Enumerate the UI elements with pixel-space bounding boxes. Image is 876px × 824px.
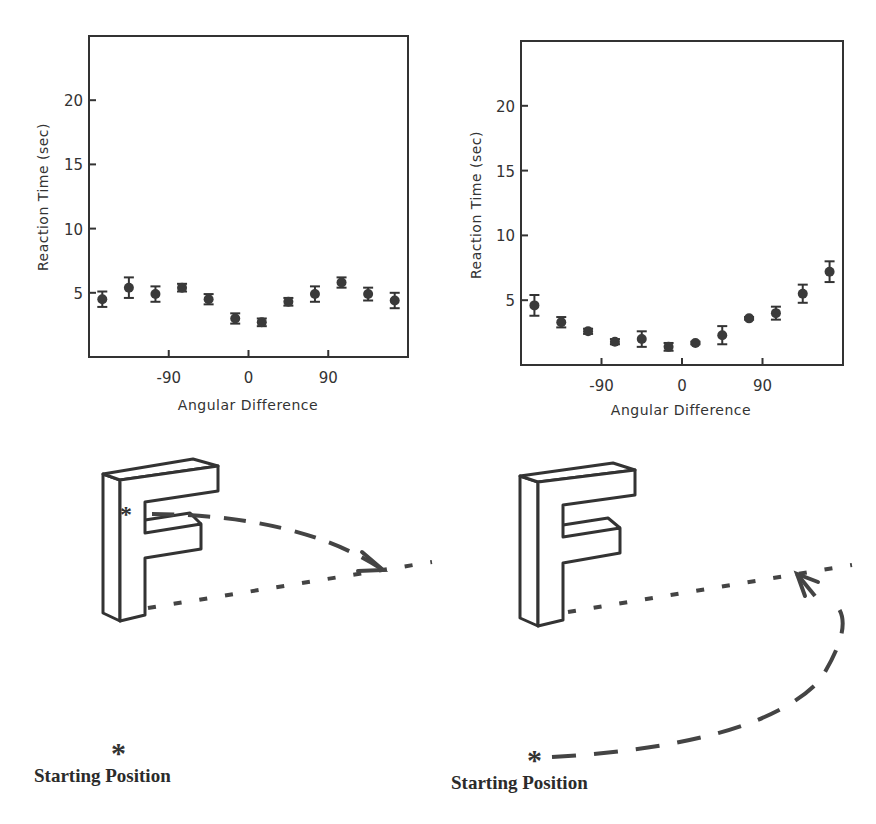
- data-point: [177, 283, 187, 293]
- left-x-axis: -90090: [157, 350, 338, 387]
- data-point: [204, 294, 214, 304]
- left-star-marker-on-f: *: [120, 501, 132, 527]
- y-tick-label: 15: [496, 163, 515, 181]
- data-point: [97, 292, 107, 307]
- data-point: [556, 317, 566, 327]
- right-letter-f-illustration: [520, 463, 635, 626]
- y-tick-label: 10: [64, 221, 83, 239]
- right-starting-position-label: Starting Position: [451, 772, 588, 794]
- y-tick-label: 5: [73, 285, 83, 303]
- f-side-face: [520, 476, 538, 626]
- right-y-axis: 5101520: [496, 98, 528, 310]
- data-point: [337, 277, 347, 287]
- x-tick-label: -90: [157, 369, 182, 387]
- left-start-star-icon: *: [111, 738, 126, 768]
- x-tick-label: 0: [244, 369, 254, 387]
- figure-canvas: 5101520 -90090 Angular Difference Reacti…: [0, 0, 876, 824]
- left-chart: 5101520 -90090 Angular Difference Reacti…: [35, 36, 408, 413]
- data-point: [390, 293, 400, 308]
- data-point: [771, 307, 781, 320]
- y-tick-label: 20: [496, 98, 515, 116]
- y-tick-label: 5: [505, 292, 515, 310]
- data-point: [825, 261, 835, 282]
- right-x-axis-title: Angular Difference: [611, 402, 751, 418]
- data-point: [664, 342, 674, 352]
- data-point: [310, 286, 320, 301]
- left-starting-position-label: Starting Position: [34, 765, 171, 787]
- right-y-axis-title: Reaction Time (sec): [468, 131, 484, 279]
- right-x-axis: -90090: [589, 358, 772, 395]
- x-tick-label: 90: [753, 377, 772, 395]
- data-point: [744, 313, 754, 323]
- left-data-points: [97, 277, 399, 327]
- data-point: [283, 297, 293, 307]
- data-point: [717, 326, 727, 344]
- data-point: [583, 326, 593, 336]
- right-chart: 5101520 -90090 Angular Difference Reacti…: [468, 41, 843, 418]
- right-data-points: [529, 261, 834, 352]
- f-side-face: [103, 474, 120, 621]
- data-point: [150, 286, 160, 301]
- data-point: [610, 337, 620, 347]
- left-y-axis: 5101520: [64, 92, 96, 303]
- data-point: [230, 313, 240, 323]
- y-tick-label: 15: [64, 156, 83, 174]
- left-x-axis-title: Angular Difference: [178, 397, 318, 413]
- x-tick-label: -90: [589, 377, 614, 395]
- right-start-star-icon: *: [527, 745, 542, 775]
- data-point: [124, 277, 134, 298]
- data-point: [637, 331, 647, 347]
- left-dotted-line: [148, 562, 432, 608]
- right-plot-frame: [521, 41, 843, 365]
- left-y-axis-title: Reaction Time (sec): [35, 123, 51, 271]
- data-point: [690, 338, 700, 348]
- y-tick-label: 20: [64, 92, 83, 110]
- x-tick-label: 0: [677, 377, 687, 395]
- left-plot-frame: [89, 36, 408, 357]
- data-point: [798, 285, 808, 303]
- right-rotation-arc: [552, 605, 843, 757]
- x-tick-label: 90: [319, 369, 338, 387]
- y-tick-label: 10: [496, 227, 515, 245]
- data-point: [529, 295, 539, 316]
- left-letter-f-illustration: [103, 459, 218, 621]
- data-point: [363, 288, 373, 301]
- left-arrowhead-icon: [358, 552, 383, 571]
- data-point: [257, 317, 267, 327]
- f-middle-arm-top: [563, 518, 620, 528]
